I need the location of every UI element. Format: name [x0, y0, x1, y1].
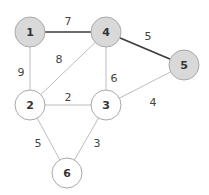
node-label: 2	[26, 99, 34, 112]
node-6: 6	[52, 158, 82, 188]
edge-weight-1-4: 7	[65, 15, 72, 28]
node-1: 1	[15, 17, 45, 47]
node-label: 1	[26, 26, 34, 39]
node-3: 3	[91, 90, 121, 120]
edge-weight-4-3: 6	[111, 72, 118, 85]
node-2: 2	[15, 90, 45, 120]
node-label: 5	[180, 59, 188, 72]
node-label: 6	[63, 167, 71, 180]
nodes-group: 145236	[15, 17, 199, 188]
edge-weight-4-5: 5	[145, 30, 152, 43]
edge-weight-1-2: 9	[18, 66, 25, 79]
node-4: 4	[91, 17, 121, 47]
edge-weight-3-6: 3	[94, 137, 101, 150]
node-label: 4	[102, 26, 110, 39]
edge-weight-3-5: 4	[150, 96, 157, 109]
edge-weight-2-3: 2	[65, 91, 72, 104]
edge-weight-2-6: 5	[35, 137, 42, 150]
graph-diagram: 759862453 145236	[0, 0, 209, 195]
edge-weight-2-4: 8	[56, 53, 63, 66]
node-label: 3	[102, 99, 110, 112]
node-5: 5	[169, 50, 199, 80]
